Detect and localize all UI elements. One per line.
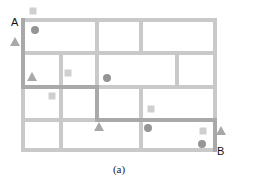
square-icon (30, 8, 37, 15)
maze-diagram: A B (a) (0, 0, 277, 184)
square-icon (148, 106, 155, 113)
triangle-icon (216, 126, 226, 135)
markers (10, 8, 226, 149)
figure-caption: (a) (113, 163, 126, 176)
circle-icon (144, 124, 152, 132)
circle-icon (31, 26, 39, 34)
triangle-icon (10, 37, 20, 46)
circle-icon (103, 74, 111, 82)
square-icon (65, 70, 72, 77)
square-icon (200, 128, 207, 135)
circle-icon (198, 140, 206, 148)
square-icon (49, 93, 56, 100)
triangle-icon (27, 72, 37, 81)
end-label-b: B (217, 145, 224, 157)
triangle-icon (94, 122, 104, 131)
start-label-a: A (11, 16, 19, 28)
